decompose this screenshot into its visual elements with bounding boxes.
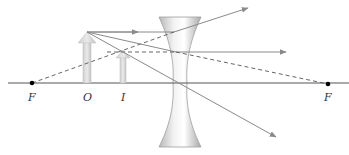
label-focal-right: F [323, 91, 332, 104]
lens-ray-diagram: F O I F [0, 0, 349, 155]
object-arrow [78, 32, 96, 83]
focal-point-left [30, 81, 35, 86]
label-object: O [83, 91, 92, 104]
ray-parallel [32, 8, 248, 83]
label-image: I [120, 91, 126, 104]
diverging-lens [159, 17, 201, 147]
label-focal-left: F [27, 91, 36, 104]
focal-point-right [326, 82, 331, 87]
